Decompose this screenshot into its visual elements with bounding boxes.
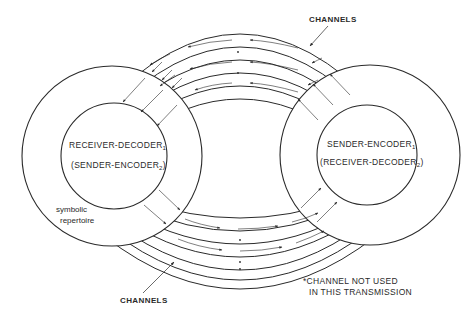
left-outer-circle — [22, 66, 202, 246]
left-node-role-primary: RECEIVER-DECODER1 — [69, 141, 166, 151]
left-node — [22, 66, 202, 246]
symbolic-repertoire-label-line2: repertoire — [60, 217, 94, 225]
right-node-incoming-arrows — [301, 188, 337, 222]
top-unused-markers — [237, 51, 239, 74]
right-node-role-secondary: (RECEIVER-DECODER2) — [320, 158, 424, 168]
bottom-channels-label: CHANNELS — [120, 297, 168, 305]
left-node-incoming-arrows — [123, 62, 182, 126]
bottom-channels-pointer — [143, 262, 174, 293]
bottom-channel-arrows — [178, 213, 324, 251]
right-node-role-primary: SENDER-ENCODER1 — [327, 140, 416, 150]
arrow-icon — [188, 40, 232, 47]
arrow-icon — [160, 75, 175, 86]
top-channels-pointer — [310, 26, 328, 46]
right-node-outgoing-arrows — [298, 74, 350, 120]
footnote-line1: *CHANNEL NOT USED — [303, 277, 398, 286]
top-channels-label: CHANNELS — [309, 16, 357, 24]
arrow-icon — [240, 247, 282, 251]
left-node-role-secondary: (SENDER-ENCODER2) — [71, 161, 166, 171]
footnote-line2: IN THIS TRANSMISSION — [309, 288, 412, 297]
arrow-icon — [312, 58, 322, 63]
symbolic-repertoire-label-line1: symbolic — [56, 206, 87, 214]
arrow-icon — [250, 62, 298, 70]
communication-diagram: CHANNELS CHANNELS RECEIVER-DECODER1 (SEN… — [0, 0, 474, 320]
right-inner-circle — [317, 105, 417, 205]
left-inner-circle — [61, 103, 167, 209]
right-node — [280, 65, 460, 245]
arrow-icon — [296, 231, 324, 243]
top-channels — [100, 34, 380, 140]
right-outer-circle — [280, 65, 460, 245]
arrow-icon — [185, 219, 220, 228]
